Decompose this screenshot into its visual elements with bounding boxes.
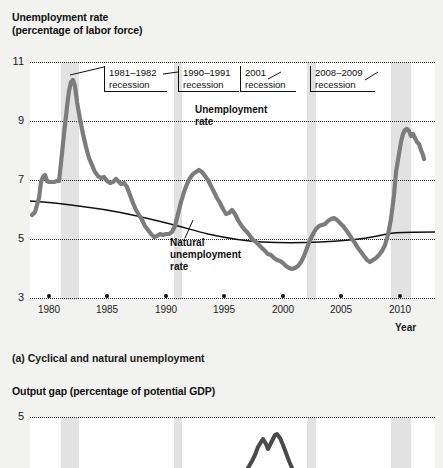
plot-area-panel-a: Unemployment rate Natural unemployment r… xyxy=(30,62,435,300)
x-tick-label-2010: 2010 xyxy=(380,304,420,315)
x-tick-2000 xyxy=(281,294,285,298)
x-tick-2010 xyxy=(398,294,402,298)
recession-callout-2008-2009: 2008–2009 recession xyxy=(310,66,375,92)
x-tick-label-1995: 1995 xyxy=(204,304,244,315)
panel-output-gap: Output gap (percentage of potential GDP)… xyxy=(0,385,443,468)
recession-callout-1990-1991: 1990–1991 recession xyxy=(178,66,239,92)
y-tick-label-3: 3 xyxy=(0,291,24,303)
recession-callout-1981-1982: 1981–1982 recession xyxy=(104,66,167,92)
x-tick-label-1985: 1985 xyxy=(87,304,127,315)
x-tick-label-1980: 1980 xyxy=(29,304,69,315)
recession-callout-2001: 2001 recession xyxy=(240,66,296,92)
y-tick-label-7: 7 xyxy=(0,173,24,185)
output-gap-line xyxy=(248,434,292,468)
output-gap-chart-svg xyxy=(30,417,435,468)
x-tick-2005 xyxy=(339,294,343,298)
x-tick-label-2000: 2000 xyxy=(263,304,303,315)
panel-a-caption: (a) Cyclical and natural unemployment xyxy=(12,352,205,364)
panel-b-axis-title: Output gap (percentage of potential GDP) xyxy=(12,385,215,398)
panel-cyclical-natural-unemployment: Unemployment rate (percentage of labor f… xyxy=(0,0,443,345)
unemployment-rate-series-label: Unemployment rate xyxy=(195,104,267,128)
x-tick-1980 xyxy=(47,294,51,298)
x-tick-1995 xyxy=(222,294,226,298)
panel-b-y-tick-label-5: 5 xyxy=(0,410,24,422)
x-axis-title-year: Year xyxy=(395,322,416,333)
natural-unemployment-rate-series-label: Natural unemployment rate xyxy=(170,237,241,273)
panel-a-axis-title: Unemployment rate (percentage of labor f… xyxy=(12,11,142,37)
x-tick-1985 xyxy=(105,294,109,298)
y-tick-label-9: 9 xyxy=(0,114,24,126)
x-tick-label-1990: 1990 xyxy=(146,304,186,315)
x-tick-1990 xyxy=(164,294,168,298)
y-tick-label-5: 5 xyxy=(0,232,24,244)
y-tick-label-11: 11 xyxy=(0,55,24,67)
x-tick-label-2005: 2005 xyxy=(321,304,361,315)
plot-area-panel-b xyxy=(30,417,435,468)
